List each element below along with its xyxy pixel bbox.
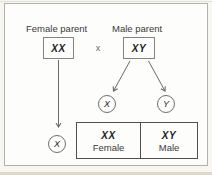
offspring-table: XX Female XY Male: [76, 122, 198, 159]
offspring-cell-female: XX Female: [77, 123, 141, 158]
gamete-circle-female-x: X: [48, 135, 66, 153]
offspring-male-sex-label: Male: [159, 142, 180, 153]
diagram-canvas: Female parent Male parent XX x XY X X Y …: [0, 0, 212, 175]
gamete-circle-male-x: X: [98, 95, 116, 113]
arrow-male-to-gamete-x: [114, 61, 131, 91]
gamete-letter-female-x: X: [54, 139, 60, 149]
offspring-cell-male: XY Male: [141, 123, 197, 158]
arrow-male-to-gamete-y: [149, 61, 166, 91]
gamete-letter-male-y: Y: [163, 99, 169, 109]
offspring-male-genotype: XY: [162, 130, 176, 141]
offspring-female-sex-label: Female: [93, 142, 125, 153]
offspring-female-genotype: XX: [101, 130, 115, 141]
gamete-circle-male-y: Y: [157, 95, 175, 113]
bottom-edge-strip: [0, 172, 212, 175]
gamete-letter-male-x: X: [104, 99, 110, 109]
